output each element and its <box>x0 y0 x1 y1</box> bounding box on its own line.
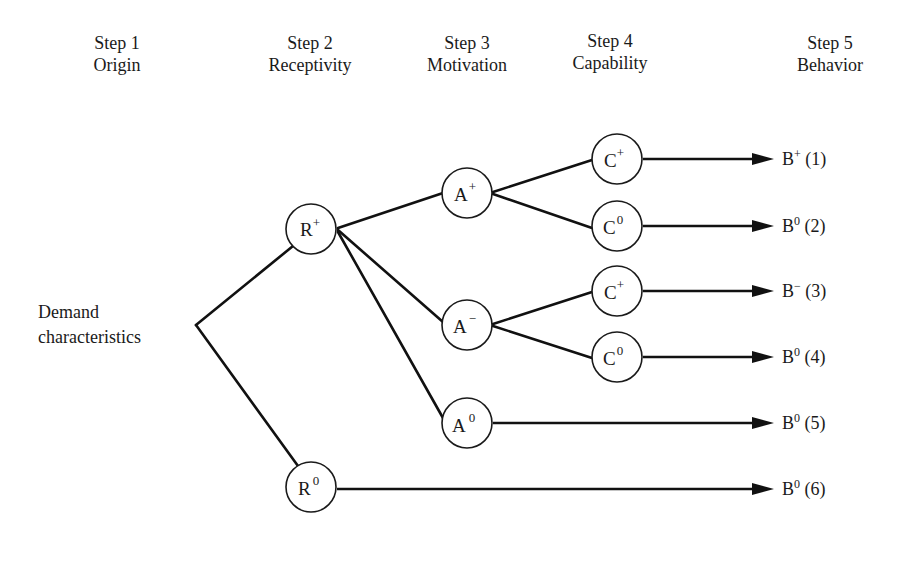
node-a-zero: A0 <box>442 398 492 448</box>
node-a-plus-base: A <box>454 184 468 205</box>
node-c-zero-1-sup: 0 <box>617 212 624 227</box>
node-c-plus-1: C+ <box>592 134 642 184</box>
node-c-zero-2-base: C <box>603 348 616 369</box>
edge-r-plus-a-zero <box>338 232 443 418</box>
outcome-2-number: (2) <box>805 216 826 236</box>
node-r-zero-sup: 0 <box>313 473 320 488</box>
outcome-2: B0 (2) <box>782 215 826 237</box>
node-c-plus-1-sup: + <box>617 145 624 160</box>
outcome-6-base: B <box>782 479 794 499</box>
node-r-plus: R+ <box>286 204 336 254</box>
arrow-head-1 <box>752 153 774 165</box>
outcome-2-base: B <box>782 216 794 236</box>
arrow-head-4 <box>752 351 774 363</box>
arrow-head-6 <box>752 483 774 495</box>
outcome-3-base: B <box>782 281 794 301</box>
node-a-zero-sup: 0 <box>469 410 476 425</box>
outcome-4-number: (4) <box>805 347 826 367</box>
edge-a-minus-c-plus <box>493 292 592 324</box>
outcome-5: B0 (5) <box>782 412 826 434</box>
edge-origin-r-plus <box>196 246 293 325</box>
node-c-zero-1: C0 <box>592 201 642 251</box>
outcome-4-base: B <box>782 347 794 367</box>
node-c-plus-1-base: C <box>604 150 617 171</box>
node-a-minus-sup: − <box>469 311 476 326</box>
node-c-plus-2-sup: + <box>617 277 624 292</box>
outcome-6-number: (6) <box>805 479 826 499</box>
outcome-5-sup: 0 <box>794 411 800 425</box>
node-r-zero-base: R <box>298 478 311 499</box>
edge-r-plus-a-plus <box>338 193 443 228</box>
node-r-plus-sup: + <box>313 215 320 230</box>
node-c-zero-2-sup: 0 <box>617 343 624 358</box>
node-a-plus: A+ <box>442 168 492 218</box>
outcome-1-sup: + <box>794 147 801 161</box>
outcome-3-number: (3) <box>805 281 826 301</box>
outcome-5-number: (5) <box>805 413 826 433</box>
outcome-6: B0 (6) <box>782 478 826 500</box>
outcome-1-base: B <box>782 149 794 169</box>
outcome-1-number: (1) <box>805 149 826 169</box>
outcome-3-sup: − <box>794 279 801 293</box>
node-c-zero-2: C0 <box>592 332 642 382</box>
node-r-zero: R0 <box>286 462 336 512</box>
arrow-head-3 <box>752 285 774 297</box>
outcome-2-sup: 0 <box>794 214 800 228</box>
outcome-6-sup: 0 <box>794 477 800 491</box>
edge-a-plus-c-plus <box>493 160 592 192</box>
arrow-head-2 <box>752 220 774 232</box>
edge-a-plus-c-zero <box>493 194 592 228</box>
node-a-plus-sup: + <box>469 179 476 194</box>
node-c-zero-1-base: C <box>603 217 616 238</box>
node-a-zero-base: A <box>452 415 466 436</box>
edge-r-plus-a-minus <box>338 230 443 322</box>
node-c-plus-2-base: C <box>604 282 617 303</box>
node-r-plus-base: R <box>300 219 313 240</box>
edge-a-minus-c-zero <box>493 326 592 358</box>
node-a-minus: A− <box>442 300 492 350</box>
arrow-head-5 <box>752 417 774 429</box>
outcome-4: B0 (4) <box>782 346 826 368</box>
node-a-minus-base: A <box>453 316 467 337</box>
outcome-3: B− (3) <box>782 280 826 302</box>
decision-tree: R+ R0 A+ A− A0 C+ C0 C+ C0 <box>0 0 910 564</box>
edge-origin-r-zero <box>196 325 298 466</box>
outcome-5-base: B <box>782 413 794 433</box>
node-c-plus-2: C+ <box>592 266 642 316</box>
outcome-4-sup: 0 <box>794 345 800 359</box>
outcome-1: B+ (1) <box>782 148 826 170</box>
